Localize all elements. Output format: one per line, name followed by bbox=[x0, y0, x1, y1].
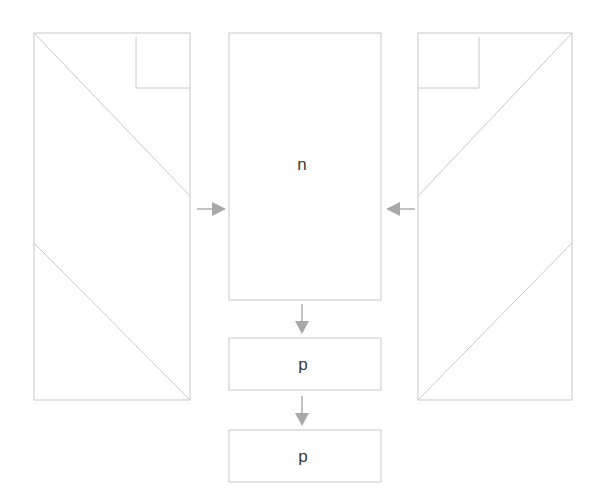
diagram-canvas: n p p bbox=[0, 0, 599, 504]
node-left-stack[interactable] bbox=[34, 33, 190, 400]
arrow-p-first-to-p-second-head bbox=[295, 413, 309, 426]
label-p-first: p bbox=[298, 356, 308, 373]
label-center-n: n bbox=[297, 156, 307, 173]
diagram-svg bbox=[0, 0, 599, 504]
label-p-second: p bbox=[298, 448, 308, 465]
arrow-right-to-center-head bbox=[386, 202, 400, 216]
arrow-left-to-center-head bbox=[212, 202, 226, 216]
arrow-right-to-center bbox=[386, 202, 415, 216]
arrow-left-to-center bbox=[197, 202, 226, 216]
node-right-stack[interactable] bbox=[418, 33, 572, 400]
arrow-center-to-p-first-head bbox=[295, 321, 309, 334]
arrow-p-first-to-p-second bbox=[295, 396, 309, 426]
arrow-center-to-p-first bbox=[295, 304, 309, 334]
